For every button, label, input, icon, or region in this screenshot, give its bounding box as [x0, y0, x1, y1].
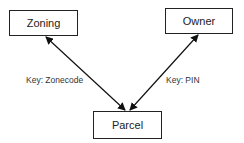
node-owner[interactable]: Owner — [165, 8, 233, 34]
edge-label-zonecode: Key: Zonecode — [26, 75, 83, 85]
node-owner-label: Owner — [183, 15, 215, 27]
edge-owner-parcel — [130, 35, 198, 110]
edge-label-pin: Key: PIN — [166, 75, 200, 85]
node-zoning-label: Zoning — [27, 17, 61, 29]
node-parcel[interactable]: Parcel — [93, 111, 162, 139]
node-parcel-label: Parcel — [112, 119, 143, 131]
edge-zoning-parcel — [46, 37, 125, 110]
node-zoning[interactable]: Zoning — [9, 10, 78, 36]
